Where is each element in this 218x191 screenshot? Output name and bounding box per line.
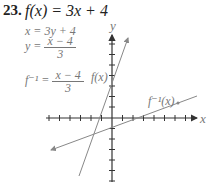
finv-line (51, 96, 197, 150)
f-label: f(x) (91, 70, 108, 85)
graph (0, 0, 218, 191)
finv-label: f⁻¹(x) (148, 94, 175, 109)
f-line (79, 38, 128, 176)
finv-point (177, 102, 180, 105)
x-axis-label: x (200, 111, 206, 127)
y-axis-label: y (110, 18, 116, 34)
